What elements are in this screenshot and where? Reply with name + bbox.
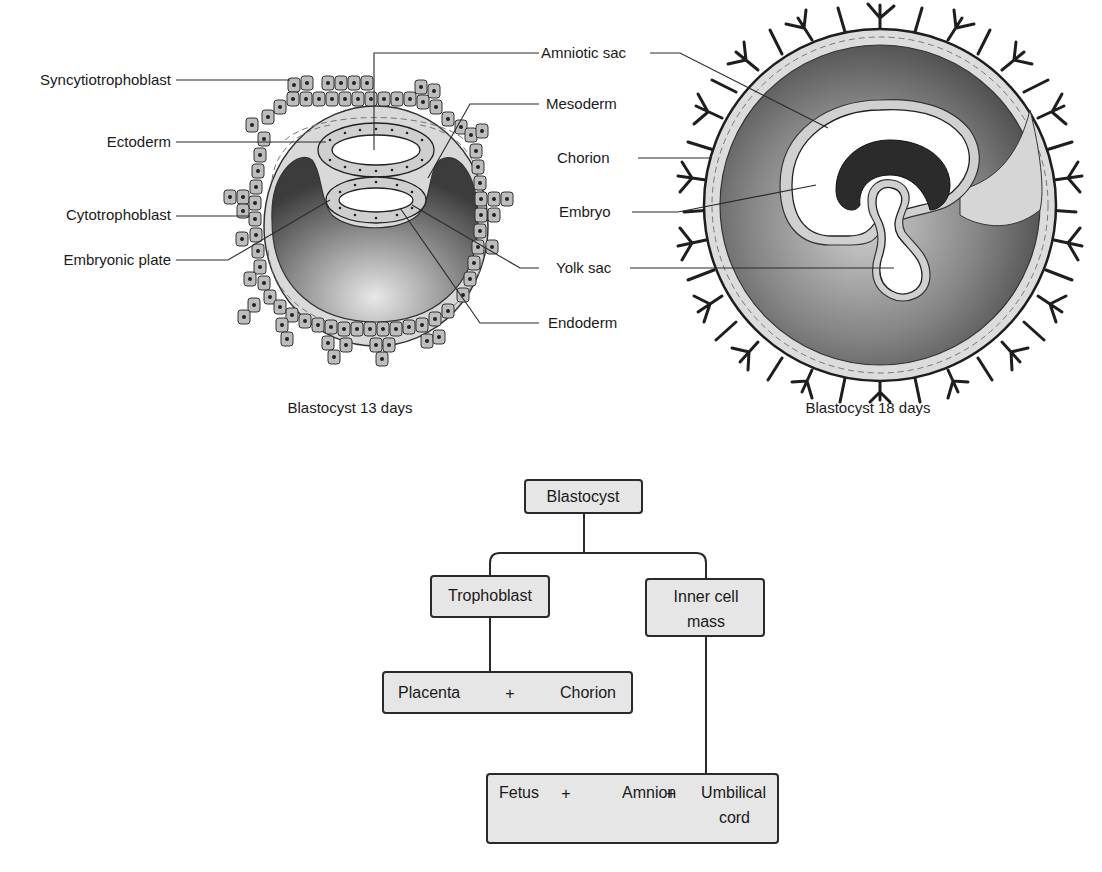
label-cytotrophoblast: Cytotrophoblast (66, 206, 172, 223)
label-endoderm: Endoderm (548, 314, 617, 331)
node-label-plus-1: + (561, 785, 570, 802)
flowchart-node-inner-cell-mass: Inner cell mass (646, 579, 764, 636)
flowchart-node-blastocyst: Blastocyst (525, 480, 642, 513)
node-label-plus-2: + (666, 785, 675, 802)
label-amniotic-sac: Amniotic sac (541, 44, 627, 61)
label-embryo: Embryo (559, 203, 611, 220)
label-ectoderm: Ectoderm (107, 133, 171, 150)
flowchart-node-placenta-chorion: Placenta + Chorion (383, 672, 632, 713)
label-mesoderm: Mesoderm (546, 95, 617, 112)
node-label-fetus: Fetus (499, 784, 539, 801)
left-labels: Syncytiotrophoblast Ectoderm Cytotrophob… (40, 71, 172, 268)
flowchart-node-trophoblast: Trophoblast (431, 576, 549, 617)
flowchart-node-fetus-amnion-cord: Fetus + Amnion + Umbilical cord (487, 774, 778, 843)
node-label-umbilical: Umbilical (701, 784, 766, 801)
label-chorion: Chorion (557, 149, 610, 166)
caption-blastocyst-18-days: Blastocyst 18 days (805, 399, 930, 416)
node-label-inner-cell-mass-line2: mass (687, 613, 725, 630)
label-embryonic-plate: Embryonic plate (63, 251, 171, 268)
node-label-placenta: Placenta (398, 684, 460, 701)
node-label-chorion: Chorion (560, 684, 616, 701)
label-syncytiotrophoblast: Syncytiotrophoblast (40, 71, 172, 88)
label-yolk-sac: Yolk sac (556, 259, 612, 276)
flowchart: Blastocyst Trophoblast Inner cell mass P… (383, 480, 778, 843)
blastocyst-13-days-diagram (224, 76, 513, 366)
blastocyst-18-days-diagram (678, 4, 1082, 402)
node-label-trophoblast: Trophoblast (448, 587, 532, 604)
node-label-plus: + (505, 685, 514, 702)
node-label-inner-cell-mass-line1: Inner cell (674, 588, 739, 605)
caption-blastocyst-13-days: Blastocyst 13 days (287, 399, 412, 416)
blastocyst-figure: Syncytiotrophoblast Ectoderm Cytotrophob… (0, 0, 1102, 872)
node-label-blastocyst: Blastocyst (547, 488, 620, 505)
node-label-cord: cord (719, 809, 750, 826)
middle-labels: Amniotic sac Mesoderm Chorion Embryo Yol… (541, 44, 627, 331)
